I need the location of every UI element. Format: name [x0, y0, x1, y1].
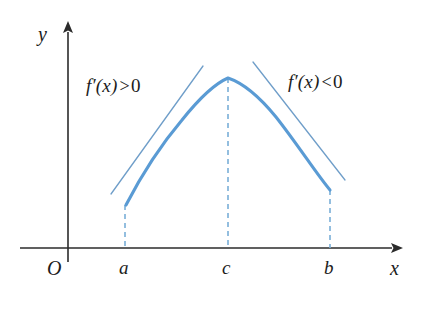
annotation-derivative-positive-function: f′(x)	[86, 75, 118, 96]
tick-label-b: b	[324, 258, 334, 277]
calculus-diagram-figure: f′(x)>0 f′(x)<0 y x O a c b	[0, 0, 434, 309]
annotation-derivative-negative-function: f′(x)	[288, 71, 320, 92]
annotation-derivative-positive-value: 0	[131, 75, 141, 96]
annotation-derivative-negative-operator: <	[322, 72, 332, 92]
y-axis-label: y	[38, 24, 47, 44]
annotation-derivative-positive: f′(x)>0	[86, 76, 141, 95]
tick-label-c: c	[222, 258, 230, 277]
x-axis-label: x	[390, 258, 399, 278]
annotation-derivative-positive-operator: >	[120, 76, 130, 96]
diagram-canvas	[0, 0, 434, 309]
tick-label-a: a	[119, 258, 129, 277]
annotation-derivative-negative: f′(x)<0	[288, 72, 343, 91]
annotation-derivative-negative-value: 0	[333, 71, 343, 92]
origin-label: O	[47, 258, 61, 278]
